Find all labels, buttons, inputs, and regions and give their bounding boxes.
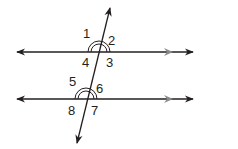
top-parallel-line xyxy=(17,48,193,56)
transversal-line xyxy=(77,8,110,143)
angle-arcs-bottom xyxy=(75,88,97,99)
angle-label-3: 3 xyxy=(106,55,113,70)
angle-label-7: 7 xyxy=(91,103,98,118)
angle-label-5: 5 xyxy=(69,74,76,89)
angle-label-1: 1 xyxy=(83,26,90,41)
angle-label-6: 6 xyxy=(96,81,103,96)
angle-label-8: 8 xyxy=(68,103,75,118)
parallel-lines-diagram: 1 2 3 4 5 6 7 8 xyxy=(0,0,238,149)
bottom-parallel-line xyxy=(17,95,193,103)
angle-label-2: 2 xyxy=(108,33,115,48)
angle-label-4: 4 xyxy=(82,55,89,70)
